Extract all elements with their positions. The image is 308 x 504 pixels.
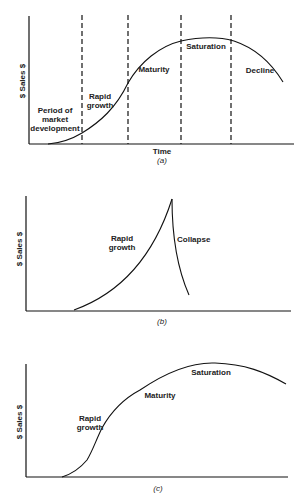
a-sales-curve	[48, 38, 283, 144]
c-caption: (c)	[153, 484, 163, 493]
a-y-label: $ Sales $	[18, 63, 27, 98]
b-growth-curve	[74, 199, 172, 310]
b-collapse-curve	[172, 199, 189, 295]
a-phase5: Decline	[246, 66, 275, 75]
a-phase2-line1: Rapid	[89, 92, 111, 101]
a-caption: (a)	[157, 156, 167, 165]
b-growth-line1: Rapid	[111, 234, 133, 243]
c-y-label: $ Sales $	[15, 404, 24, 439]
a-phase1-line1: Period of	[38, 106, 73, 115]
b-growth-line2: growth	[109, 243, 136, 252]
a-phase1-line3: development	[30, 124, 80, 133]
c-saturation-label: Saturation	[191, 368, 231, 377]
c-growth-line2: growth	[77, 423, 104, 432]
panel-a: $ Sales $ Period of market development R…	[18, 15, 294, 165]
a-phase-dividers	[82, 15, 231, 144]
a-phase2-line2: growth	[87, 101, 114, 110]
a-phase4: Saturation	[186, 42, 226, 51]
product-life-cycle-diagrams: $ Sales $ Period of market development R…	[0, 0, 308, 504]
panel-c: $ Sales $ Rapid growth Maturity Saturati…	[15, 363, 288, 493]
a-phase3: Maturity	[138, 65, 170, 74]
b-y-label: $ Sales $	[15, 231, 24, 266]
c-growth-line1: Rapid	[79, 414, 101, 423]
b-collapse-label: Collapse	[177, 235, 211, 244]
a-x-label: Time	[153, 147, 172, 156]
a-phase1-line2: market	[42, 115, 69, 124]
panel-b: $ Sales $ Rapid growth Collapse (b)	[15, 196, 291, 326]
b-caption: (b)	[157, 317, 167, 326]
c-maturity-label: Maturity	[144, 391, 176, 400]
